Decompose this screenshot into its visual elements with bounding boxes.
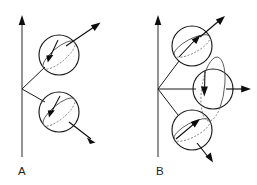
panel-a-vertical-axis-arrow [19, 15, 26, 157]
sphere-equator-front [43, 41, 74, 68]
panel-b-label: B [156, 165, 164, 177]
sphere-moment-arrow [200, 16, 225, 37]
panel-b-connector-bottom [158, 89, 178, 115]
panel-a: A [18, 15, 100, 177]
panel-b: B [155, 15, 251, 177]
panel-a-connector-top [22, 67, 45, 89]
panel-b-connector-top [158, 61, 179, 89]
moment-arrow-shaft [200, 20, 220, 37]
spin-arrowhead-icon [46, 55, 53, 63]
panel-a-sphere-bottom [39, 92, 96, 144]
sphere-spin-arrow [176, 119, 200, 139]
sphere-spin-arrow [201, 71, 208, 97]
panel-b-sphere-middle [193, 57, 251, 121]
moment-arrow-shaft [66, 26, 96, 46]
moment-arrowhead-icon [206, 153, 214, 163]
sphere-spin-arrow [48, 96, 60, 118]
panel-b-sphere-bottom [172, 110, 213, 163]
panel-a-connector-bottom [22, 89, 45, 102]
sphere-moment-arrow [66, 23, 101, 47]
spin-arrowhead-icon [48, 110, 55, 117]
axis-arrowhead-icon [155, 15, 162, 25]
sphere-moment-arrow [69, 122, 96, 144]
sphere-spin-arrow [179, 35, 201, 57]
axis-arrowhead-icon [19, 15, 26, 25]
spin-arrowhead-icon [201, 86, 208, 96]
moment-arrowhead-icon [216, 16, 225, 25]
sphere-equator-front [43, 98, 74, 125]
sphere-outline [172, 110, 212, 150]
sphere-equator-front [174, 35, 210, 56]
moment-arrow-shaft [69, 122, 91, 139]
spin-arrow-shaft [179, 39, 196, 57]
sphere-spin-arrow [46, 40, 58, 63]
moment-arrowhead-icon [241, 86, 251, 93]
moment-arrowhead-icon [91, 23, 101, 31]
sphere-moment-arrow [226, 86, 251, 93]
panel-a-sphere-top [39, 23, 101, 76]
sphere-equator-front [206, 57, 225, 108]
spin-vector-diagram: A [0, 0, 257, 185]
panel-a-label: A [18, 165, 26, 177]
panel-b-sphere-top [172, 16, 225, 66]
figure-root: A [0, 0, 257, 185]
